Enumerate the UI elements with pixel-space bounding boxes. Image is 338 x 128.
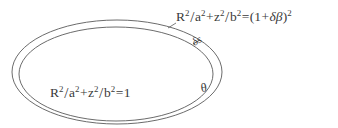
inner-eq-b: b [104,85,111,100]
outer-eq-slash-1: / [190,10,195,25]
outer-eq-a-exponent: 2 [201,8,206,18]
inner-surface-equation-label: R2/a2+z2/b2=1 [50,85,131,100]
outer-eq-equals: = [241,9,249,24]
outer-eq-slash-2: / [225,10,230,25]
inner-eq-slash-1: / [64,86,69,101]
inner-eq-R: R [50,85,59,100]
torus-cross-section-figure: R2/a2+z2/b2=(1+δβ)2 R2/a2+z2/b2=1 δs θ [0,0,338,128]
outer-eq-R: R [176,9,185,24]
inner-eq-a-exponent: 2 [75,84,80,94]
inner-eq-equals: = [115,85,123,100]
inner-boundary-ellipse [19,27,213,121]
outer-eq-plus-1: + [206,9,214,24]
outer-eq-outer-exponent: 2 [287,8,292,18]
inner-eq-one: 1 [124,85,131,100]
outer-surface-equation-label: R2/a2+z2/b2=(1+δβ)2 [176,9,292,24]
inner-eq-slash-2: / [99,86,104,101]
outer-eq-beta: β [276,9,283,24]
inner-eq-plus: + [80,85,88,100]
outer-eq-b: b [230,9,237,24]
